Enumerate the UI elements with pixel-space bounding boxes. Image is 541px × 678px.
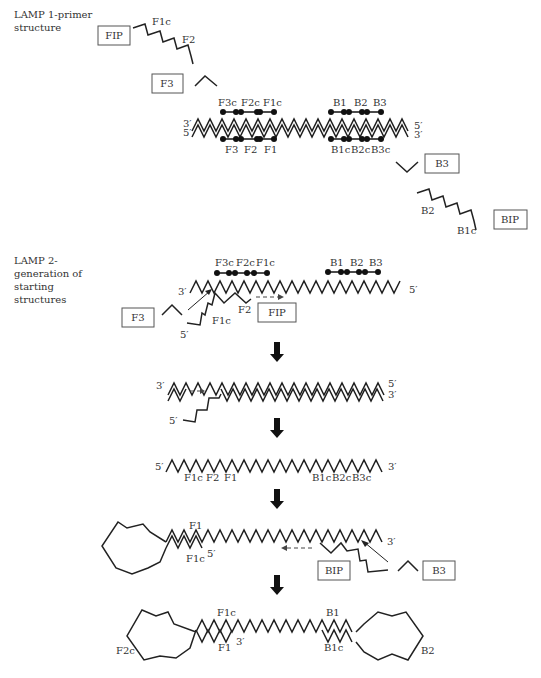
section2-title-line2: generation of — [14, 268, 83, 279]
step5-b1c-strand — [322, 630, 352, 642]
section1-title-line1: LAMP 1-primer — [14, 9, 93, 20]
bip-b1c-label: B1c — [457, 225, 477, 236]
step3-label-b2c: B2c — [332, 472, 352, 483]
step1-left-end: 3′ — [178, 286, 187, 297]
step3-label-b1c: B1c — [312, 472, 332, 483]
step1-label-b2: B2 — [350, 257, 364, 268]
step1-label-f2c: F2c — [236, 257, 255, 268]
top-label-f2c: F2c — [241, 97, 260, 108]
bip-primer-box: BIP — [494, 210, 527, 229]
f3-primer-box: F3 — [152, 74, 183, 93]
step3-right-end: 3′ — [388, 461, 397, 472]
step1-label-b3: B3 — [369, 257, 383, 268]
bottom-label-f3: F3 — [225, 144, 238, 155]
bottom-label-b2c: B2c — [351, 144, 371, 155]
step1-5prime-label: 5′ — [180, 329, 189, 340]
step5-f1-strand — [196, 630, 232, 642]
end-bottom-left: 5′ — [183, 127, 192, 138]
f3-primer-strand — [195, 76, 217, 86]
step4-3prime-label: 3′ — [387, 536, 396, 547]
step5-b1c-label: B1c — [324, 642, 344, 653]
top-marker-bar-backward — [328, 109, 384, 115]
step4-b3-strand — [398, 561, 418, 571]
step4-extension-arrow — [364, 542, 388, 562]
step3-label-b3c: B3c — [352, 472, 372, 483]
bottom-label-b1c: B1c — [331, 144, 351, 155]
step3-label-f2: F2 — [206, 472, 219, 483]
step4-f1c-strand — [166, 536, 202, 548]
step4-b3-label: B3 — [432, 565, 446, 576]
template-strand — [190, 281, 400, 293]
step1-label-b1: B1 — [330, 257, 344, 268]
step4-dashed-arrowhead — [281, 545, 287, 551]
step2-bottom-right: 3′ — [388, 389, 397, 400]
end-bottom-right: 3′ — [414, 129, 423, 140]
step2-top-right: 5′ — [388, 378, 397, 389]
step1-marker-bar-forward — [214, 270, 270, 276]
section1-title-line2: structure — [14, 22, 61, 33]
step5-f1c-label: F1c — [217, 607, 236, 618]
section2-title-line1: LAMP 2- — [14, 255, 58, 266]
step5-b1-label: B1 — [326, 607, 340, 618]
step3-label-f1: F1 — [224, 472, 237, 483]
step4-extension-arrowhead — [361, 540, 369, 547]
step2-tail-5prime: 5′ — [169, 415, 178, 426]
top-label-b2: B2 — [354, 97, 368, 108]
step5-left-loop — [127, 610, 196, 660]
step-arrow-icon — [270, 489, 284, 509]
b3-label: B3 — [435, 158, 449, 169]
target-dna-duplex — [192, 119, 408, 137]
step4-bip-primer-box: BIP — [318, 561, 350, 580]
step5-b2-label: B2 — [421, 645, 435, 656]
step1-fip-primer-box: FIP — [258, 303, 296, 322]
step2-top-left: 3′ — [156, 380, 165, 391]
bip-b2-label: B2 — [421, 205, 435, 216]
fip-primer-box: FIP — [98, 26, 130, 45]
step-arrow-icon — [270, 575, 284, 595]
step4-f1-label: F1 — [189, 520, 202, 531]
step1-marker-bar-backward — [325, 269, 381, 275]
step3-strand — [166, 460, 382, 472]
fip-f1c-label: F1c — [152, 16, 171, 27]
top-label-b1: B1 — [333, 97, 347, 108]
step2-displaced-tail — [183, 394, 221, 422]
step1-f3-primer-box: F3 — [122, 308, 154, 327]
bip-label: BIP — [501, 214, 519, 225]
step1-f1c-label: F1c — [212, 315, 231, 326]
step1-f3-label: F3 — [131, 312, 144, 323]
section2-title-line4: structures — [14, 294, 66, 305]
step1-f3-strand — [162, 305, 182, 315]
step5-right-loop — [356, 612, 423, 660]
b3-primer-box: B3 — [425, 154, 459, 173]
step5-f2c-label: F2c — [116, 645, 135, 656]
fip-label: FIP — [105, 30, 123, 41]
f3-label: F3 — [160, 78, 173, 89]
step-arrow-icon — [270, 418, 284, 438]
step-arrow-icon — [270, 342, 284, 362]
step5-f1-label: F1 — [218, 642, 231, 653]
lamp-diagram: LAMP 1-primer structure FIP F1c F2 F3 F3… — [0, 0, 541, 678]
top-label-b3: B3 — [373, 97, 387, 108]
step1-right-end: 5′ — [409, 284, 418, 295]
step4-bip-label: BIP — [325, 565, 343, 576]
step4-b3-primer-box: B3 — [423, 561, 455, 580]
bottom-label-b3c: B3c — [371, 144, 391, 155]
step5-3prime-label: 3′ — [236, 636, 245, 647]
step1-template-strand — [190, 281, 400, 293]
step3-single-strand — [166, 460, 382, 472]
top-label-f3c: F3c — [218, 97, 237, 108]
step4-loop — [102, 522, 166, 574]
section2-title-line3: starting — [14, 281, 55, 292]
step4-f1c-label: F1c — [186, 553, 205, 564]
step3-label-f1c: F1c — [184, 472, 203, 483]
bottom-label-f2: F2 — [244, 144, 257, 155]
fip-f2-label: F2 — [182, 34, 195, 45]
step3-left-end: 5′ — [155, 461, 164, 472]
step1-fip-label: FIP — [268, 307, 286, 318]
step1-label-f3c: F3c — [215, 257, 234, 268]
top-label-f1c: F1c — [263, 97, 282, 108]
step1-dashed-arrowhead — [278, 294, 284, 300]
step1-label-f1c: F1c — [256, 257, 275, 268]
step4-5prime-label: 5′ — [207, 548, 216, 559]
step5-dumbbell-structure — [127, 610, 423, 660]
